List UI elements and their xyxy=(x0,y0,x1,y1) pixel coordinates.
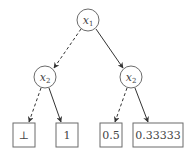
node-sub: 1 xyxy=(89,20,93,28)
node-right-x2: x2 xyxy=(120,66,142,88)
leaf-label: 1 xyxy=(64,129,71,142)
leaf-label: 0.33333 xyxy=(135,129,181,142)
leaf-third: 0.33333 xyxy=(133,123,183,147)
edge-right-leaf3-dashed xyxy=(115,88,127,122)
node-sub: 2 xyxy=(132,77,136,85)
edge-root-right-solid xyxy=(96,29,123,68)
edge-left-leaf1-dashed xyxy=(29,88,41,122)
edge-right-leaf4-solid xyxy=(135,88,148,122)
leaf-label: ⊥ xyxy=(19,129,29,142)
decision-diagram: x1 x2 x2 ⊥ 1 0.5 0.33333 xyxy=(0,0,185,156)
leaf-bottom: ⊥ xyxy=(13,123,35,147)
node-left-x2: x2 xyxy=(34,66,56,88)
leaf-one: 1 xyxy=(56,123,78,147)
node-root-x1: x1 xyxy=(77,9,99,31)
edge-root-left-dashed xyxy=(54,29,81,68)
leaf-label: 0.5 xyxy=(102,129,120,142)
node-sub: 2 xyxy=(46,77,50,85)
leaf-half: 0.5 xyxy=(100,123,122,147)
edge-left-leaf2-solid xyxy=(49,88,61,122)
